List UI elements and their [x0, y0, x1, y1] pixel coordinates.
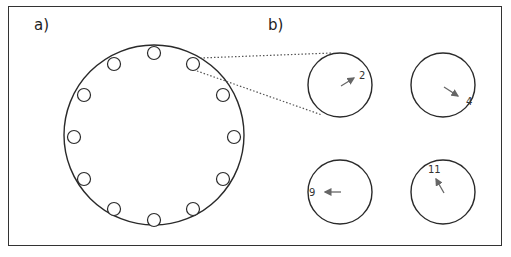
small-circle-6 — [148, 214, 161, 227]
diagram-canvas: 2 4 9 11 — [0, 0, 511, 257]
large-circle — [64, 45, 244, 225]
clock-11: 11 — [411, 160, 475, 224]
small-circle-1 — [187, 58, 200, 71]
small-circle-7 — [108, 203, 121, 216]
clock-4: 4 — [411, 53, 475, 117]
small-circle-10 — [78, 89, 91, 102]
small-circle-11 — [108, 58, 121, 71]
small-circle-3 — [228, 131, 241, 144]
clock-9: 9 — [308, 160, 372, 224]
clock-4-number: 4 — [466, 96, 472, 107]
small-circle-5 — [187, 203, 200, 216]
small-circle-2 — [217, 89, 230, 102]
clock-11-number: 11 — [428, 164, 441, 175]
small-circle-9 — [68, 131, 81, 144]
small-circle-12 — [148, 47, 161, 60]
clock-9-number: 9 — [309, 187, 315, 198]
clock-2-number: 2 — [359, 70, 365, 81]
zoom-lines — [197, 53, 332, 115]
small-circle-8 — [78, 173, 91, 186]
clock-2: 2 — [308, 53, 372, 117]
small-circles — [68, 47, 241, 227]
small-circle-4 — [217, 173, 230, 186]
figure: a) b) — [0, 0, 511, 257]
